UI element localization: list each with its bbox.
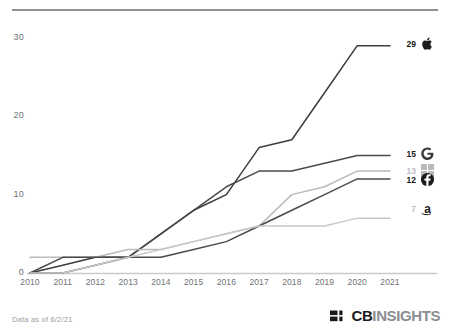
y-axis-tick-label: 20 — [2, 110, 24, 120]
series-line-microsoft — [30, 171, 390, 257]
series-line-facebook — [30, 179, 390, 273]
y-axis-tick-label: 0 — [2, 267, 24, 277]
facebook-f-icon — [420, 172, 435, 191]
x-axis-tick-label: 2011 — [46, 277, 80, 287]
end-label-google: 15 — [394, 149, 416, 159]
x-axis-tick-label: 2015 — [177, 277, 211, 287]
end-label-facebook: 12 — [394, 175, 416, 185]
amazon-a-icon: a — [420, 201, 435, 220]
end-label-apple: 29 — [394, 39, 416, 49]
x-axis-tick-label: 2018 — [275, 277, 309, 287]
cbinsights-mark-icon — [330, 310, 347, 322]
y-axis-tick-label: 10 — [2, 189, 24, 199]
logo-cb-text: CB — [351, 307, 372, 324]
x-axis-tick-label: 2017 — [242, 277, 276, 287]
x-axis-tick-label: 2014 — [144, 277, 178, 287]
x-axis-tick-label: 2010 — [13, 277, 47, 287]
cbinsights-wordmark: CBINSIGHTS — [351, 308, 440, 323]
chart-screenshot: 0102030 20102011201220132014201520162017… — [0, 0, 450, 332]
y-axis-tick-label: 30 — [2, 32, 24, 42]
cbinsights-logo: CBINSIGHTS — [330, 308, 440, 323]
x-axis-tick-label: 2020 — [340, 277, 374, 287]
x-axis-tick-label: 2019 — [308, 277, 342, 287]
end-label-amazon: 7 — [394, 204, 416, 214]
x-axis-tick-label: 2016 — [209, 277, 243, 287]
data-as-of-note: Data as of 6/2/21 — [12, 315, 73, 324]
logo-insights-text: INSIGHTS — [372, 307, 440, 324]
series-line-google — [30, 155, 390, 273]
svg-text:a: a — [424, 202, 431, 216]
x-axis-tick-label: 2012 — [78, 277, 112, 287]
series-line-apple — [30, 46, 390, 273]
apple-icon — [420, 36, 435, 55]
x-axis-tick-label: 2013 — [111, 277, 145, 287]
x-axis-tick-label: 2021 — [373, 277, 407, 287]
